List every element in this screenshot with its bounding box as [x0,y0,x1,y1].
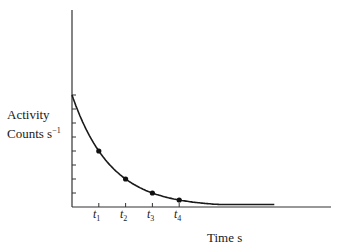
y-axis-unit: Counts s [7,126,52,141]
data-point [123,176,128,181]
y-axis-unit-exponent: −1 [52,126,61,135]
x-axis-label: Time s [207,230,242,246]
data-point [150,190,155,195]
data-point [96,148,101,153]
x-tick-label-t1: t1 [93,207,100,223]
data-points [96,148,182,202]
x-tick-label-t4: t4 [174,207,181,223]
x-tick-label-t2: t2 [120,207,127,223]
data-point [177,197,182,202]
y-axis-label-line1: Activity [7,107,50,122]
y-axis-label-line2: Counts s−1 [7,123,61,141]
decay-curve [72,95,274,205]
axes [72,10,331,207]
x-tick-label-t3: t3 [147,207,154,223]
